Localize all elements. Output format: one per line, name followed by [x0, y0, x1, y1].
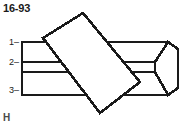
drawing-geometry	[22, 13, 178, 113]
figure-canvas: 16-93 1– 2– 3– H	[0, 0, 186, 128]
watermark-letter: H	[3, 112, 10, 124]
technical-drawing	[0, 0, 186, 128]
